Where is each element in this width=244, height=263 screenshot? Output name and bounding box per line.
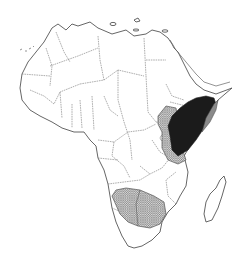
africa-map (0, 0, 244, 263)
canary-islands (20, 46, 34, 51)
madagascar-island (204, 176, 226, 222)
mediterranean-islands (110, 18, 168, 32)
